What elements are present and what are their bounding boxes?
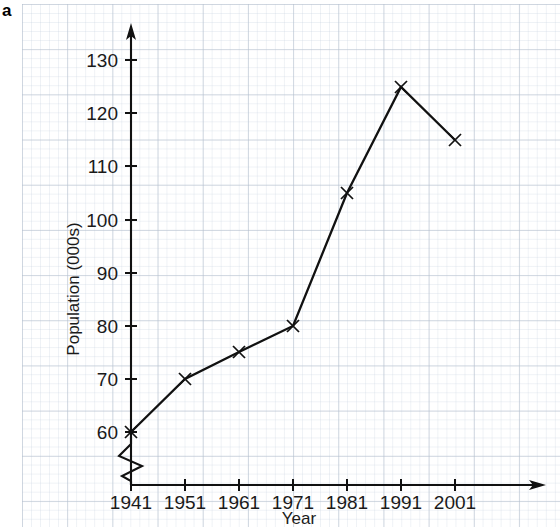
data-point-1951 <box>179 373 191 385</box>
y-tick-label-60: 60 <box>97 422 118 443</box>
data-series-line <box>131 87 455 432</box>
x-tick-label-1961: 1961 <box>218 492 260 513</box>
chart-page: a 130 120 110 100 <box>0 0 560 527</box>
y-axis-title: Population (000s) <box>64 222 83 355</box>
data-markers <box>125 81 461 438</box>
y-tick-label-100: 100 <box>86 210 118 231</box>
data-point-1961 <box>233 346 245 358</box>
x-tick-label-1981: 1981 <box>326 492 368 513</box>
data-point-1991 <box>395 81 407 93</box>
y-tick-label-90: 90 <box>97 263 118 284</box>
x-tick-label-1941: 1941 <box>110 492 152 513</box>
x-axis-title: Year <box>282 509 317 527</box>
line-chart-plot: 130 120 110 100 90 80 70 60 1941 1951 19… <box>0 0 560 527</box>
y-tick-label-130: 130 <box>86 50 118 71</box>
y-tick-label-80: 80 <box>97 316 118 337</box>
data-point-1971 <box>287 320 299 332</box>
x-axis-group <box>131 480 546 490</box>
y-tick-label-70: 70 <box>97 369 118 390</box>
y-tick-labels: 130 120 110 100 90 80 70 60 <box>86 50 118 443</box>
y-tick-label-110: 110 <box>88 156 118 177</box>
x-tick-label-2001: 2001 <box>434 492 476 513</box>
data-point-2001 <box>449 134 461 146</box>
x-tick-label-1991: 1991 <box>380 492 422 513</box>
y-tick-label-120: 120 <box>86 103 118 124</box>
data-point-1981 <box>341 187 353 199</box>
x-tick-label-1951: 1951 <box>164 492 206 513</box>
y-axis-group <box>126 23 136 485</box>
